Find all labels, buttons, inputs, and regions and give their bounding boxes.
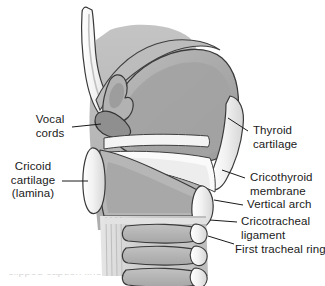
- label-vocal-cords: Vocal cords: [22, 113, 78, 140]
- label-first-tracheal-ring: First tracheal ring: [235, 243, 325, 257]
- cricotracheal-ligament: [104, 218, 206, 224]
- leader-first-ring: [208, 236, 234, 244]
- label-thyroid-cartilage: Thyroid cartilage: [253, 124, 297, 151]
- leader-vertical-arch: [214, 200, 243, 205]
- label-cricotracheal-ligament: Cricotracheal ligament: [241, 215, 310, 242]
- clipped-caption: clipped caption line: [0, 274, 325, 286]
- anatomy-figure: Vocal cords Cricoid cartilage (lamina) T…: [0, 0, 325, 286]
- label-cricothyroid-membrane: Cricothyroid membrane: [250, 171, 313, 198]
- clipped-caption-text: clipped caption line: [8, 274, 102, 277]
- leader-cricotracheal: [210, 220, 237, 222]
- label-cricoid-cartilage: Cricoid cartilage (lamina): [4, 160, 62, 201]
- label-vertical-arch: Vertical arch: [247, 198, 312, 212]
